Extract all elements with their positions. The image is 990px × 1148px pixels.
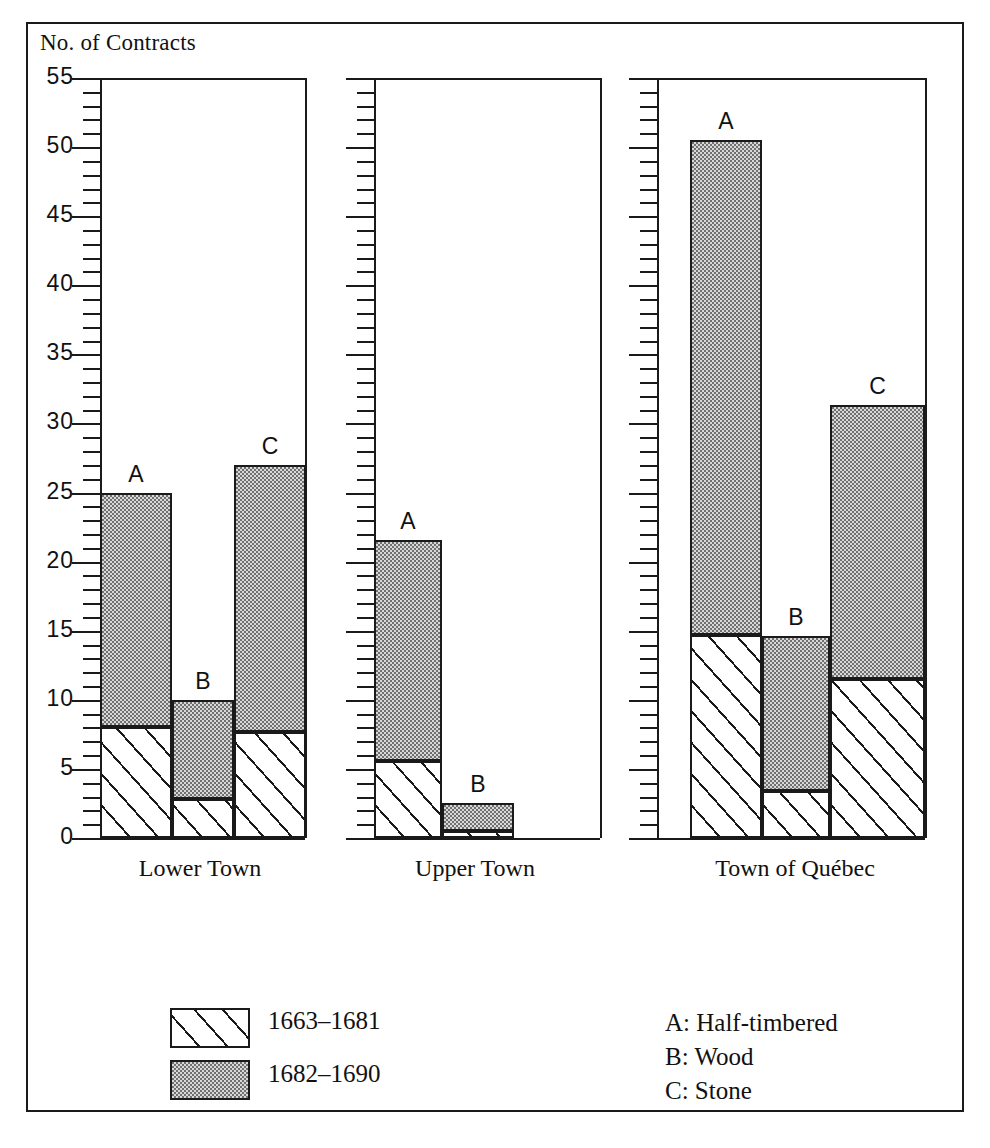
y-tick-minor-9 — [357, 714, 374, 716]
y-tick-minor-46 — [640, 202, 657, 204]
y-tick-minor-14 — [357, 645, 374, 647]
y-tick-minor-43 — [640, 244, 657, 246]
y-tick-minor-14 — [83, 645, 100, 647]
y-tick-minor-4 — [83, 783, 100, 785]
y-tick-minor-47 — [640, 189, 657, 191]
y-tick-minor-49 — [357, 161, 374, 163]
plot-area: No. of Contracts 5550454035302520151050 … — [0, 0, 990, 1148]
y-tick-major-20 — [72, 562, 100, 564]
y-tick-minor-17 — [83, 603, 100, 605]
y-tick-major-50 — [72, 147, 100, 149]
y-tick-minor-44 — [640, 230, 657, 232]
y-tick-label-15: 15 — [28, 616, 74, 643]
bar-label-quebec-A: A — [690, 108, 762, 135]
y-tick-minor-7 — [83, 741, 100, 743]
y-tick-minor-6 — [640, 755, 657, 757]
y-tick-major-5 — [629, 769, 657, 771]
y-tick-minor-11 — [357, 686, 374, 688]
y-tick-minor-37 — [83, 327, 100, 329]
legend-label-1682-1690: 1682–1690 — [268, 1060, 381, 1088]
y-tick-minor-23 — [640, 520, 657, 522]
y-tick-major-30 — [346, 423, 374, 425]
y-tick-minor-19 — [357, 575, 374, 577]
y-tick-minor-49 — [83, 161, 100, 163]
y-tick-minor-26 — [357, 479, 374, 481]
y-tick-minor-31 — [640, 410, 657, 412]
y-tick-minor-29 — [640, 437, 657, 439]
bar-segment-lower-C-1682-1690 — [234, 465, 306, 732]
panel-top-rule-quebec — [657, 78, 925, 80]
y-tick-minor-49 — [640, 161, 657, 163]
bar-segment-upper-B-1663-1681 — [442, 831, 514, 838]
y-tick-minor-52 — [357, 119, 374, 121]
legend-code-stone: C: Stone — [665, 1077, 752, 1105]
y-tick-major-50 — [629, 147, 657, 149]
y-tick-minor-32 — [357, 396, 374, 398]
y-tick-major-50 — [346, 147, 374, 149]
panel-right-rule-upper — [600, 78, 602, 838]
y-tick-minor-8 — [640, 727, 657, 729]
y-tick-minor-16 — [83, 617, 100, 619]
y-tick-minor-32 — [83, 396, 100, 398]
y-tick-minor-27 — [640, 465, 657, 467]
y-tick-major-40 — [346, 285, 374, 287]
y-tick-minor-13 — [640, 658, 657, 660]
bar-segment-lower-B-1682-1690 — [172, 700, 234, 799]
y-tick-minor-53 — [83, 106, 100, 108]
y-tick-minor-8 — [357, 727, 374, 729]
y-tick-major-45 — [629, 216, 657, 218]
y-tick-major-20 — [629, 562, 657, 564]
y-tick-label-50: 50 — [28, 132, 74, 159]
y-tick-minor-8 — [83, 727, 100, 729]
y-tick-minor-38 — [357, 313, 374, 315]
bar-segment-lower-B-1663-1681 — [172, 799, 234, 838]
y-tick-minor-41 — [640, 271, 657, 273]
y-tick-minor-48 — [83, 175, 100, 177]
y-tick-minor-12 — [83, 672, 100, 674]
y-tick-major-55 — [346, 78, 374, 80]
bar-label-lower-A: A — [100, 461, 172, 488]
y-tick-major-15 — [346, 631, 374, 633]
bar-segment-quebec-C-1663-1681 — [830, 679, 925, 838]
y-tick-major-10 — [629, 700, 657, 702]
y-tick-minor-2 — [640, 810, 657, 812]
y-tick-minor-3 — [357, 797, 374, 799]
bar-segment-quebec-B-1663-1681 — [762, 791, 830, 838]
y-tick-minor-23 — [83, 520, 100, 522]
y-tick-major-45 — [72, 216, 100, 218]
y-tick-major-55 — [629, 78, 657, 80]
y-tick-label-20: 20 — [28, 547, 74, 574]
y-tick-minor-47 — [83, 189, 100, 191]
y-tick-minor-28 — [640, 451, 657, 453]
bar-segment-quebec-B-1682-1690 — [762, 636, 830, 791]
y-tick-minor-54 — [640, 92, 657, 94]
y-tick-minor-52 — [640, 119, 657, 121]
y-tick-minor-7 — [357, 741, 374, 743]
y-tick-minor-37 — [357, 327, 374, 329]
y-tick-minor-2 — [357, 810, 374, 812]
y-tick-minor-29 — [83, 437, 100, 439]
y-tick-minor-26 — [83, 479, 100, 481]
y-tick-major-10 — [346, 700, 374, 702]
y-tick-minor-51 — [357, 133, 374, 135]
y-tick-label-55: 55 — [28, 63, 74, 90]
y-tick-minor-29 — [357, 437, 374, 439]
y-tick-minor-44 — [83, 230, 100, 232]
y-tick-minor-27 — [357, 465, 374, 467]
chart-figure: No. of Contracts 5550454035302520151050 … — [0, 0, 990, 1148]
y-tick-minor-36 — [357, 341, 374, 343]
y-tick-minor-42 — [640, 258, 657, 260]
y-tick-label-10: 10 — [28, 685, 74, 712]
y-tick-minor-24 — [83, 506, 100, 508]
bar-segment-upper-A-1682-1690 — [374, 540, 442, 761]
panel-right-rule-quebec — [925, 78, 927, 838]
y-tick-minor-51 — [640, 133, 657, 135]
y-tick-minor-39 — [640, 299, 657, 301]
bar-segment-upper-B-1682-1690 — [442, 803, 514, 831]
y-tick-major-30 — [72, 423, 100, 425]
y-tick-minor-3 — [640, 797, 657, 799]
y-tick-minor-31 — [357, 410, 374, 412]
y-tick-minor-7 — [640, 741, 657, 743]
y-tick-minor-54 — [83, 92, 100, 94]
bar-label-lower-C: C — [234, 433, 306, 460]
